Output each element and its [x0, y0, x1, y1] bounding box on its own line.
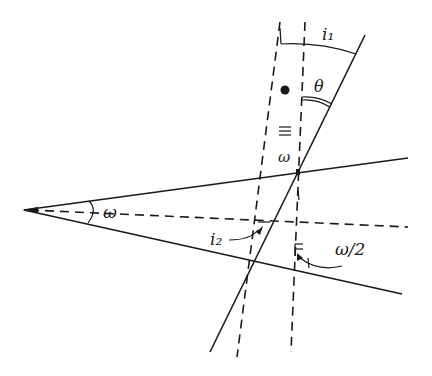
incidence-arc	[281, 44, 356, 54]
inner-angle-label: ω	[278, 148, 290, 166]
incidence-angle-label: i₁	[322, 24, 334, 44]
half-angle-arrow	[300, 258, 342, 268]
upper-intersection-marker	[296, 169, 300, 175]
point-source-dot	[281, 86, 290, 95]
normal-dashed-vertical	[291, 22, 305, 352]
deviation-angle-label: θ	[314, 77, 324, 96]
prism	[22, 158, 408, 294]
exit-angle-label: i₂	[210, 229, 222, 249]
ray-line	[210, 35, 365, 352]
angle-marker-triple	[279, 127, 291, 135]
half-angle-label: ω/2	[335, 239, 365, 259]
upper-tick	[298, 190, 299, 200]
normal-dashed-slanted	[237, 22, 280, 357]
apex-angle-label: ω	[103, 202, 117, 222]
prism-diagram: ω i₁ θ ω i₂ ω/2	[0, 0, 432, 376]
half-angle-tick	[308, 258, 309, 268]
incidence-arc-tick	[280, 28, 281, 44]
prism-upper-face	[24, 158, 408, 210]
half-angle-marker	[295, 244, 303, 256]
